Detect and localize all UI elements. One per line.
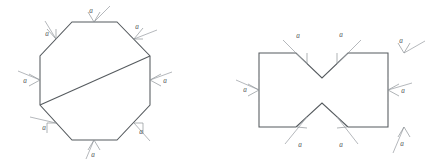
leader-line (404, 41, 425, 53)
leader-line (388, 83, 412, 90)
dimension-label: a (298, 141, 302, 149)
arrowhead-up-icon (88, 140, 100, 150)
leader-line (337, 117, 358, 144)
arrowhead-right-icon (29, 74, 40, 86)
octagon-figure: a a a a a a (18, 6, 172, 159)
rect-label-bottom-right: a (393, 127, 410, 153)
dimension-label: a (296, 32, 300, 40)
notch-label-bottom-right: a (337, 117, 358, 149)
rect-label-left: a (236, 80, 259, 96)
notch-label-top-left: a (283, 32, 307, 64)
notched-rectangle-figure: a a a a a a (236, 31, 425, 153)
octagon-diagonal (40, 56, 150, 105)
octagon-label-left: a (18, 71, 40, 86)
leader-line (150, 72, 172, 80)
octagon-label-right: a (150, 72, 172, 86)
leader-line (285, 117, 307, 144)
dimension-label: a (135, 23, 139, 31)
dimension-label: a (45, 30, 49, 38)
leader-line (94, 6, 110, 22)
dimension-label: a (89, 7, 93, 15)
technical-drawing-canvas: a a a a a a (0, 0, 437, 164)
dimension-label: a (339, 31, 343, 39)
arrowhead-up-right-icon (297, 117, 307, 128)
dimension-label: a (243, 86, 247, 94)
arrowhead-up-left-icon (337, 117, 347, 128)
dimension-label: a (23, 77, 27, 85)
arrowhead-left-icon (150, 74, 161, 86)
octagon-label-top-left: a (45, 21, 56, 39)
dimension-label: a (163, 77, 167, 85)
leader-line (18, 71, 40, 80)
dimension-label: a (399, 37, 403, 45)
dimension-label: a (400, 140, 404, 148)
rect-label-top-right: a (398, 37, 425, 53)
dimension-label: a (139, 128, 143, 136)
dimension-label: a (339, 141, 343, 149)
arrowhead-left-icon (388, 84, 399, 96)
octagon-label-top-right: a (134, 23, 157, 39)
rect-label-right: a (388, 83, 412, 96)
octagon-label-bottom-right: a (134, 123, 150, 141)
arrowhead-up-right-icon (47, 123, 56, 133)
notched-rectangle-outline (259, 53, 388, 127)
dimension-label: a (401, 87, 405, 95)
octagon-label-top: a (88, 6, 110, 22)
notch-label-top-right: a (337, 31, 361, 64)
octagon-label-bottom: a (86, 140, 100, 159)
notch-label-bottom-left: a (285, 117, 307, 149)
dimension-label: a (91, 151, 95, 159)
arrowhead-up-icon (398, 127, 410, 137)
octagon-label-bottom-left: a (30, 117, 56, 133)
dimension-label: a (42, 124, 46, 132)
